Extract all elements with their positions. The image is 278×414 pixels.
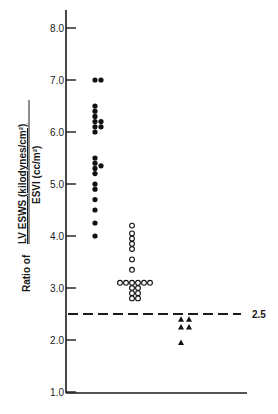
data-point-group-2 — [130, 286, 135, 291]
data-point-group-1 — [92, 171, 97, 176]
data-point-group-2 — [130, 267, 135, 272]
data-point-group-1 — [92, 124, 97, 129]
data-point-group-1 — [92, 161, 97, 166]
data-point-group-2 — [130, 291, 135, 296]
data-point-group-1 — [92, 114, 97, 119]
y-tick-label: 5.0 — [50, 179, 64, 190]
data-point-group-1 — [92, 155, 97, 160]
data-point-group-2 — [130, 247, 135, 252]
data-point-group-1 — [92, 166, 97, 171]
data-point-group-2 — [118, 280, 123, 285]
data-point-group-2 — [130, 241, 135, 246]
data-point-group-1 — [98, 124, 103, 129]
scatter-chart: 1.02.03.04.05.06.07.08.0 2.5 Ratio of LV… — [0, 0, 278, 414]
data-point-group-2 — [130, 231, 135, 236]
data-point-group-3 — [178, 340, 184, 346]
data-point-group-2 — [130, 223, 135, 228]
y-tick-label: 6.0 — [50, 127, 64, 138]
data-point-group-3 — [178, 316, 184, 322]
data-point-group-2 — [136, 286, 141, 291]
threshold-label: 2.5 — [252, 309, 266, 320]
data-point-group-1 — [92, 129, 97, 134]
data-point-group-1 — [98, 77, 103, 82]
data-point-group-2 — [148, 280, 153, 285]
data-point-group-2 — [130, 296, 135, 301]
y-tick-label: 8.0 — [50, 23, 64, 34]
y-label-numerator: LV ESWS (kilodynes/cm²) — [17, 124, 28, 244]
data-point-group-1 — [92, 233, 97, 238]
y-tick-label: 3.0 — [50, 283, 64, 294]
data-point-group-2 — [136, 291, 141, 296]
y-tick-label: 4.0 — [50, 231, 64, 242]
data-point-group-2 — [130, 257, 135, 262]
data-point-group-3 — [186, 316, 192, 322]
data-point-group-1 — [92, 109, 97, 114]
data-point-group-3 — [178, 324, 184, 330]
data-point-group-1 — [92, 187, 97, 192]
y-tick-label: 2.0 — [50, 335, 64, 346]
data-point-group-2 — [130, 236, 135, 241]
data-point-group-2 — [124, 280, 129, 285]
y-tick-label: 7.0 — [50, 75, 64, 86]
y-axis-label: Ratio of LV ESWS (kilodynes/cm²) ESVI (c… — [17, 100, 42, 292]
data-point-group-1 — [92, 220, 97, 225]
data-point-group-1 — [92, 103, 97, 108]
data-point-group-1 — [92, 119, 97, 124]
data-point-group-2 — [136, 280, 141, 285]
data-point-group-1 — [98, 119, 103, 124]
axes — [66, 10, 247, 393]
data-point-group-1 — [98, 163, 103, 168]
y-ticks: 1.02.03.04.05.06.07.08.0 — [50, 23, 76, 398]
data-points — [92, 77, 192, 345]
data-point-group-1 — [92, 197, 97, 202]
data-point-group-2 — [136, 296, 141, 301]
data-point-group-1 — [92, 77, 97, 82]
data-point-group-1 — [92, 181, 97, 186]
data-point-group-2 — [142, 280, 147, 285]
data-point-group-3 — [186, 324, 192, 330]
y-tick-label: 1.0 — [50, 387, 64, 398]
data-point-group-1 — [92, 207, 97, 212]
reference-line: 2.5 — [68, 309, 266, 320]
data-point-group-2 — [130, 280, 135, 285]
y-label-denominator: ESVI (cc/m²) — [31, 146, 42, 204]
y-label-prefix: Ratio of — [21, 254, 32, 292]
